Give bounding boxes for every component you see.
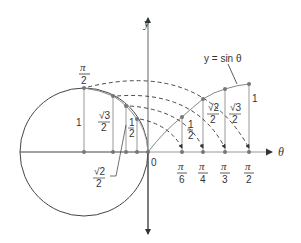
circle-arc-highlight: [84, 88, 137, 119]
left-label-sqrt3-num: √3: [99, 110, 110, 121]
tick-labels: π 6 π 4 π 3 π 2: [177, 160, 254, 185]
left-label-sqrt2-den: 2: [96, 178, 102, 189]
left-label-sqrt2-num: √2: [94, 166, 105, 177]
left-label-sqrt3-den: 2: [101, 122, 107, 133]
svg-text:π: π: [199, 160, 205, 172]
svg-text:2: 2: [246, 174, 252, 185]
curve-label-leader: [228, 64, 237, 84]
right-label-half-num: 1: [188, 119, 194, 130]
right-label-sqrt3-num: √3: [230, 102, 241, 113]
top-label-num: π: [80, 61, 86, 73]
origin-label: 0: [151, 157, 157, 168]
svg-text:π: π: [221, 160, 227, 172]
svg-text:π: π: [245, 160, 251, 172]
unit-circle-sine-diagram: y θ 0 y = sin θ π 2 1 √3 2 1 2 √2 2 1 2 …: [0, 0, 301, 243]
top-label-den: 2: [81, 75, 87, 86]
theta-axis-label: θ: [278, 145, 284, 159]
svg-text:6: 6: [179, 174, 185, 185]
left-label-half-den: 2: [129, 128, 135, 139]
svg-text:4: 4: [200, 174, 206, 185]
svg-text:3: 3: [222, 174, 228, 185]
left-label-half-num: 1: [129, 117, 135, 128]
right-label-one: 1: [252, 93, 258, 104]
svg-text:π: π: [178, 160, 184, 172]
right-label-sqrt2-num: √2: [208, 102, 219, 113]
right-label-sqrt2-den: 2: [210, 114, 216, 125]
left-label-one: 1: [76, 117, 82, 128]
right-label-half-den: 2: [188, 130, 194, 141]
y-axis-label: y: [143, 16, 150, 30]
right-label-sqrt3-den: 2: [232, 114, 238, 125]
curve-label: y = sin θ: [204, 53, 242, 64]
